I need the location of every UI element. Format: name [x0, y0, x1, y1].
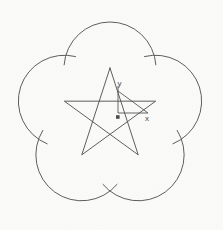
- drawing-canvas[interactable]: yx: [0, 0, 223, 230]
- cad-viewport[interactable]: yx: [0, 0, 223, 230]
- paper-grain-overlay: [0, 0, 223, 230]
